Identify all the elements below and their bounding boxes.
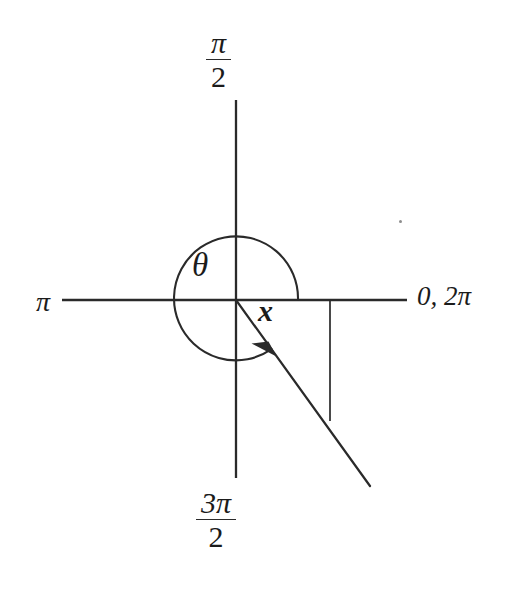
axis-label-pi: π	[36, 288, 50, 316]
fraction-numerator: 3π	[196, 488, 236, 520]
angle-label-theta: θ	[192, 249, 208, 282]
fraction-denominator: 2	[196, 520, 236, 552]
point-label-x: x	[258, 296, 273, 326]
angle-diagram-figure: π 2 3π 2 π 0, 2π θ x	[0, 0, 509, 610]
fraction-denominator: 2	[206, 60, 231, 92]
scan-speck-artifact	[399, 220, 402, 223]
axis-label-three-pi-over-2: 3π 2	[196, 488, 236, 552]
terminal-ray	[236, 300, 370, 486]
axis-label-zero-two-pi: 0, 2π	[417, 283, 471, 310]
axis-label-pi-over-2: π 2	[206, 28, 231, 92]
fraction-numerator: π	[206, 28, 231, 60]
fraction-three-pi-over-2: 3π 2	[196, 488, 236, 552]
fraction-pi-over-2: π 2	[206, 28, 231, 92]
